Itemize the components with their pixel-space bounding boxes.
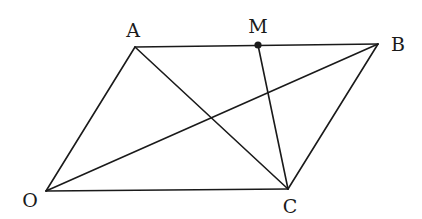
label-a: A <box>125 19 140 41</box>
segment-co <box>46 189 288 191</box>
segment-oa <box>46 47 135 191</box>
label-m: M <box>248 15 267 37</box>
segments <box>46 44 378 191</box>
label-b: B <box>391 33 405 55</box>
segment-mc <box>258 45 288 189</box>
point-m-marker <box>254 41 261 48</box>
geometry-diagram: O A B C M <box>0 0 422 219</box>
label-o: O <box>22 189 38 211</box>
segment-bc <box>288 44 378 189</box>
segment-ac <box>135 47 288 189</box>
label-c: C <box>283 195 298 217</box>
